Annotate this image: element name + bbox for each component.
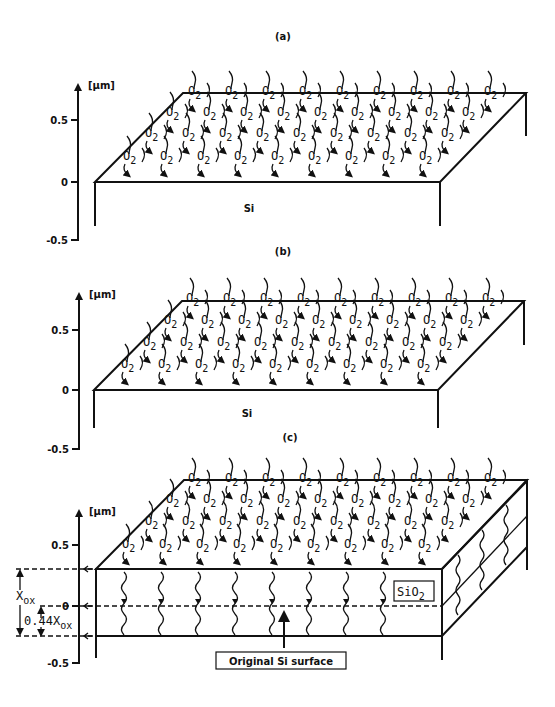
o2-molecule: O2 — [330, 113, 352, 152]
o2-molecule: O2 — [380, 344, 402, 383]
diffusion-curve-icon — [290, 148, 293, 162]
o2-label-main: O — [225, 471, 232, 485]
o2-label-sub: 2 — [393, 319, 399, 330]
o2-label: O2 — [373, 471, 386, 488]
diffusion-curve-icon — [458, 334, 461, 348]
o2-label: O2 — [186, 291, 199, 308]
o2-molecule: O2 — [423, 300, 445, 339]
o2-molecule: O2 — [462, 92, 484, 131]
o2-label-sub: 2 — [189, 132, 195, 143]
o2-label-sub: 2 — [432, 498, 438, 509]
o2-molecule: O2 — [445, 278, 467, 317]
o2-label-main: O — [312, 313, 319, 327]
o2-label: O2 — [336, 471, 349, 488]
diffusion-arrow-icon — [272, 164, 276, 175]
o2-label-main: O — [460, 313, 467, 327]
axis-arrow-icon — [74, 83, 82, 91]
diffusion-arrow-icon — [220, 141, 224, 152]
o2-label: O2 — [180, 335, 193, 352]
o2-label-main: O — [275, 313, 282, 327]
o2-label-sub: 2 — [350, 363, 356, 374]
o2-molecule: O2 — [275, 300, 297, 339]
o2-molecule: O2 — [122, 524, 144, 563]
axis-unit-label: [µm] — [88, 80, 115, 91]
diffusion-arrow-icon — [204, 507, 208, 518]
o2-label-main: O — [203, 492, 210, 506]
diffusion-curve-icon — [479, 312, 482, 326]
o2-label-sub: 2 — [128, 363, 134, 374]
o2-label: O2 — [299, 471, 312, 488]
axis-tick-label: 0.5 — [51, 540, 69, 551]
o2-label-sub: 2 — [389, 155, 395, 166]
o2-label: O2 — [417, 357, 430, 374]
o2-label-sub: 2 — [417, 477, 423, 488]
o2-molecule: O2 — [256, 113, 278, 152]
o2-label: O2 — [371, 291, 384, 308]
diffusion-arrow-icon — [366, 350, 370, 361]
diffusion-arrow-icon — [146, 141, 150, 152]
o2-label-sub: 2 — [204, 155, 210, 166]
o2-label-sub: 2 — [432, 111, 438, 122]
o2-label: O2 — [381, 537, 394, 554]
o2-molecule: O2 — [404, 501, 426, 540]
o2-label: O2 — [293, 126, 306, 143]
o2-label-main: O — [330, 126, 337, 140]
diffusion-arrow-icon — [300, 99, 304, 110]
o2-label: O2 — [166, 105, 179, 122]
o2-label: O2 — [145, 126, 158, 143]
o2-label: O2 — [299, 84, 312, 101]
o2-label-sub: 2 — [150, 341, 156, 352]
diffusion-curve-icon — [179, 148, 182, 162]
o2-label: O2 — [410, 471, 423, 488]
o2-label: O2 — [462, 492, 475, 509]
diffusion-arrow-icon — [329, 350, 333, 361]
o2-label-sub: 2 — [167, 155, 173, 166]
axis-tick-label: 0 — [61, 177, 68, 188]
diffusion-arrow-icon — [294, 141, 298, 152]
o2-label: O2 — [408, 291, 421, 308]
o2-label: O2 — [270, 537, 283, 554]
o2-label: O2 — [439, 335, 452, 352]
substrate-label: Si — [244, 203, 255, 214]
o2-label-main: O — [180, 335, 187, 349]
panel-label: (b) — [275, 246, 291, 257]
diffusion-arrow-icon — [409, 306, 413, 317]
diffusion-arrow-icon — [463, 120, 467, 131]
diffusion-curve-icon — [436, 356, 439, 370]
o2-label-sub: 2 — [335, 341, 341, 352]
diffusion-curve-icon — [370, 104, 373, 118]
o2-molecule: O2 — [233, 524, 255, 563]
o2-label: O2 — [123, 149, 136, 166]
o2-label-sub: 2 — [263, 520, 269, 531]
panel-label: (a) — [275, 31, 291, 42]
diffusion-arrow-icon — [308, 552, 312, 563]
o2-label-main: O — [232, 357, 239, 371]
o2-label-sub: 2 — [226, 520, 232, 531]
o2-molecule: O2 — [388, 479, 410, 518]
o2-molecule: O2 — [351, 479, 373, 518]
diffusion-curve-icon — [140, 356, 143, 370]
o2-label: O2 — [233, 537, 246, 554]
o2-label-main: O — [159, 537, 166, 551]
o2-label-main: O — [441, 514, 448, 528]
o2-label: O2 — [203, 105, 216, 122]
o2-label: O2 — [447, 471, 460, 488]
panel-label: (c) — [282, 432, 297, 443]
o2-molecule: O2 — [240, 479, 262, 518]
diffusion-arrow-icon — [337, 486, 341, 497]
oxidation-diagram: (a)[µm]0.50-0.5SiO2O2O2O2O2O2O2O2O2O2O2O… — [0, 0, 555, 707]
o2-label-main: O — [365, 335, 372, 349]
o2-label-main: O — [256, 514, 263, 528]
o2-label-sub: 2 — [189, 520, 195, 531]
o2-label-main: O — [182, 126, 189, 140]
diffusion-curve-icon — [437, 536, 440, 550]
o2-label: O2 — [382, 149, 395, 166]
o2-label: O2 — [441, 514, 454, 531]
o2-label-sub: 2 — [276, 363, 282, 374]
o2-label-main: O — [423, 313, 430, 327]
diffusion-arrow-icon — [442, 529, 446, 540]
o2-label-sub: 2 — [425, 543, 431, 554]
diffusion-curve-icon — [444, 104, 447, 118]
o2-label: O2 — [196, 537, 209, 554]
o2-molecule: O2 — [186, 278, 208, 317]
